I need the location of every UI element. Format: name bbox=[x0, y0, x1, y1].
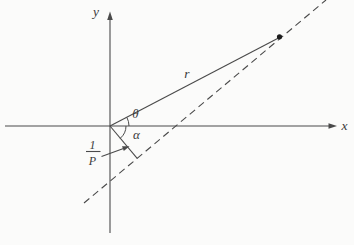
fraction-denominator: P bbox=[88, 154, 97, 168]
figure-page: yxrθα1P bbox=[0, 0, 354, 245]
x-axis-label: x bbox=[341, 118, 348, 133]
alpha-angle-label: α bbox=[133, 127, 141, 142]
theta-angle-arc bbox=[127, 117, 129, 126]
coordinate-diagram: yxrθα1P bbox=[0, 0, 354, 245]
x-axis-arrowhead bbox=[329, 123, 338, 129]
fraction-numerator: 1 bbox=[90, 138, 96, 152]
alpha-angle-arc bbox=[120, 126, 126, 138]
theta-angle-label: θ bbox=[132, 106, 139, 121]
y-axis-arrowhead bbox=[107, 12, 113, 21]
asymptote-dashed-line bbox=[84, 0, 326, 203]
orbit-point-dot bbox=[277, 34, 282, 39]
radius-label: r bbox=[184, 66, 190, 81]
y-axis-label: y bbox=[91, 4, 99, 19]
pointer-arrow-shaft bbox=[102, 149, 124, 157]
